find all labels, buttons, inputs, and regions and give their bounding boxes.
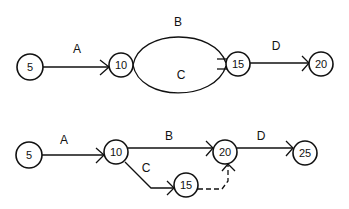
svg-text:15: 15 [180,179,192,191]
bottom-node-10: 10 [104,140,128,164]
bottom-node-5: 5 [16,142,42,168]
bottom-node-25: 25 [293,141,317,165]
bottom-edge-d-label: D [257,129,266,143]
top-node-5: 5 [17,54,43,80]
svg-text:10: 10 [110,146,122,158]
bottom-dummy-edge [198,163,235,189]
bottom-network: A B C D 5 10 [16,129,317,197]
top-edge-c-label: C [177,68,186,82]
svg-text:15: 15 [232,58,244,70]
top-edge-b [133,37,226,65]
top-edges-b-c: B C [133,15,227,93]
bottom-edge-c-label: C [142,161,151,175]
svg-text:5: 5 [27,61,33,73]
top-network: A B C D 5 10 15 2 [17,15,333,93]
svg-text:20: 20 [219,146,231,158]
top-edge-b-label: B [174,15,182,29]
bottom-node-15: 15 [174,173,198,197]
top-edge-a: A [43,42,109,75]
svg-text:10: 10 [115,59,127,71]
top-edge-d-label: D [272,39,281,53]
arrowhead-icon [222,164,235,171]
bottom-edge-a: A [42,133,104,163]
bottom-edge-b: B [128,129,213,156]
bottom-edge-c: C [125,161,174,195]
svg-text:20: 20 [315,58,327,70]
bottom-edge-a-label: A [60,133,68,147]
top-edge-a-label: A [73,42,81,56]
bottom-edge-b-label: B [165,129,173,143]
activity-network-diagram: A B C D 5 10 15 2 [0,0,349,209]
top-node-15: 15 [226,52,250,76]
top-node-10: 10 [109,53,133,77]
bottom-edge-d: D [237,129,293,156]
top-node-20: 20 [309,52,333,76]
svg-text:25: 25 [299,147,311,159]
top-edge-d: D [250,39,309,71]
bottom-node-20: 20 [213,140,237,164]
svg-text:5: 5 [26,149,32,161]
